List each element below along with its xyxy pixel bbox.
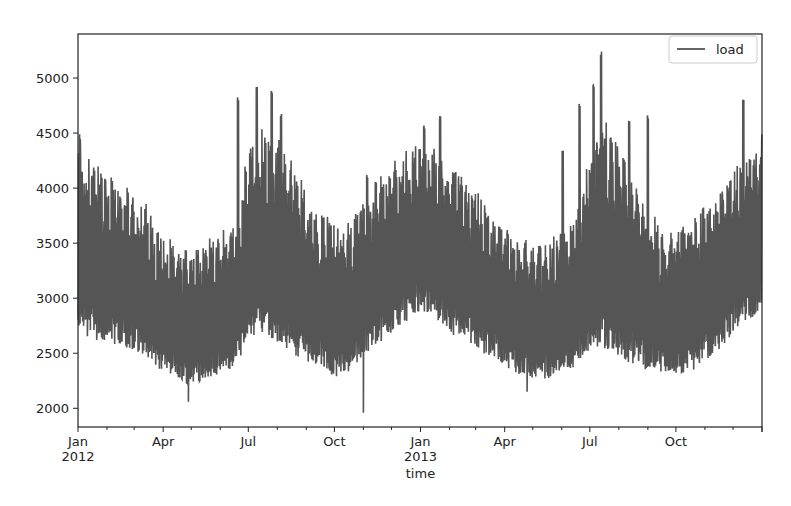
- x-tick-year-label: 2013: [404, 449, 437, 464]
- x-tick-year-label: 2012: [61, 449, 94, 464]
- y-tick-label: 4500: [36, 126, 69, 141]
- x-tick-label: Apr: [152, 434, 175, 449]
- y-tick-label: 2000: [36, 401, 69, 416]
- x-tick-label: Jan: [67, 434, 88, 449]
- x-tick-label: Jul: [581, 434, 598, 449]
- y-tick-label: 4000: [36, 181, 69, 196]
- legend: load: [669, 36, 757, 63]
- load-line: [78, 52, 762, 413]
- y-axis: 2000250030003500400045005000: [36, 71, 78, 416]
- x-tick-label: Oct: [323, 434, 345, 449]
- load-line-chart: 2000250030003500400045005000 Jan2012AprJ…: [0, 0, 791, 506]
- y-tick-label: 2500: [36, 346, 69, 361]
- x-tick-label: Apr: [493, 434, 516, 449]
- x-axis-label: time: [406, 466, 435, 481]
- legend-label-load: load: [716, 42, 744, 57]
- x-tick-label: Jul: [239, 434, 256, 449]
- y-tick-label: 3000: [36, 291, 69, 306]
- load-series: [78, 52, 762, 413]
- x-tick-label: Oct: [665, 434, 687, 449]
- y-tick-label: 5000: [36, 71, 69, 86]
- x-axis: Jan2012AprJulOctJan2013AprJulOct: [61, 427, 762, 464]
- x-tick-label: Jan: [409, 434, 430, 449]
- y-tick-label: 3500: [36, 236, 69, 251]
